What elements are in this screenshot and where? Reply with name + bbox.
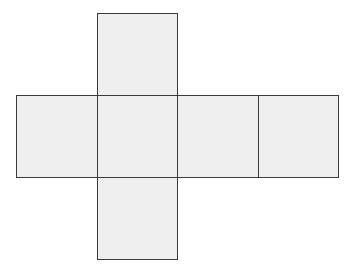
cube-face-back [258, 95, 339, 178]
cube-face-left [16, 95, 98, 178]
cube-face-bottom [97, 177, 178, 260]
cube-face-front [97, 95, 178, 178]
cube-face-right [177, 95, 259, 178]
cube-face-top [97, 13, 178, 96]
